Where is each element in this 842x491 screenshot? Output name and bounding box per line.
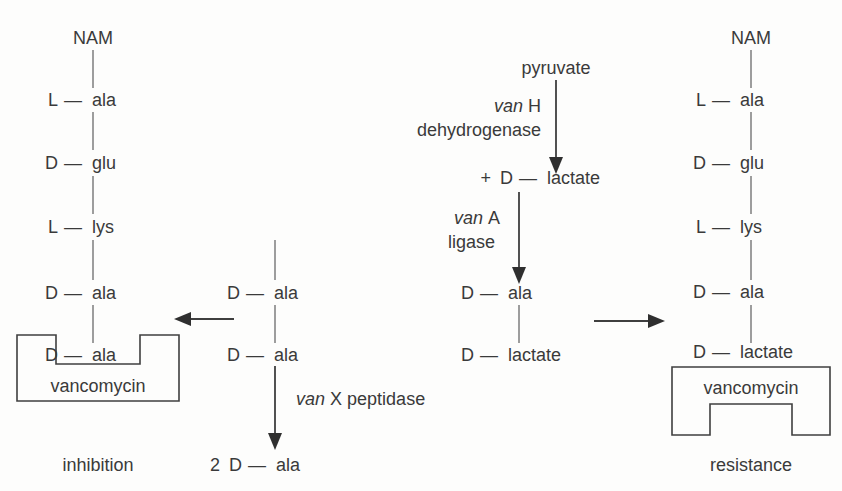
right-bond-ala-glu <box>751 112 752 150</box>
right-residue-3-name: lys <box>736 218 830 236</box>
right-residue-1-dash: — <box>706 91 736 109</box>
middle-residue-2: D — ala <box>206 346 344 364</box>
right-residue-1: L — ala <box>672 91 830 109</box>
middle-bond-top <box>275 240 276 280</box>
right-residue-5-stereo: D <box>672 343 706 361</box>
middle-enzyme-letter: X <box>330 389 342 409</box>
middle-residue-1: D — ala <box>206 284 344 302</box>
right-vancomycin-box <box>671 366 831 436</box>
left-residue-3-dash: — <box>58 218 88 236</box>
dipeptide-residue-2-name: lactate <box>504 346 598 364</box>
right-residue-4-stereo: D <box>672 283 706 301</box>
diagram-canvas: NAM L — ala D — glu L — lys D — ala D — … <box>0 0 842 491</box>
right-bond-lys-ala <box>751 240 752 280</box>
right-residue-4-name: ala <box>736 283 830 301</box>
right-residue-2-stereo: D <box>672 154 706 172</box>
left-residue-5-dash: — <box>58 346 88 364</box>
left-bond-nam-ala <box>93 50 94 88</box>
left-residue-4-dash: — <box>58 284 88 302</box>
left-residue-1-dash: — <box>58 91 88 109</box>
left-residue-4-stereo: D <box>24 284 58 302</box>
right-residue-2-name: glu <box>736 154 830 172</box>
middle-bond-ala-ala <box>275 305 276 343</box>
left-residue-5-stereo: D <box>24 346 58 364</box>
middle-enzyme-gene: van <box>296 389 325 409</box>
right-residue-2-dash: — <box>706 154 736 172</box>
left-bond-lys-ala <box>93 240 94 280</box>
middle-residue-1-stereo: D <box>206 284 240 302</box>
dipeptide-residue-2-dash: — <box>474 346 504 364</box>
left-residue-2: D — glu <box>24 154 162 172</box>
dehydrogenase-kind: dehydrogenase <box>417 121 541 139</box>
middle-residue-2-stereo: D <box>206 346 240 364</box>
left-residue-1-stereo: L <box>24 91 58 109</box>
ligase-gene-line: van A <box>454 209 500 227</box>
lactate-intermediate-prefix: + <box>475 169 495 187</box>
ligase-kind: ligase <box>448 233 495 251</box>
right-vancomycin-label: vancomycin <box>703 379 798 397</box>
lactate-intermediate-name: lactate <box>543 169 637 187</box>
left-residue-1-name: ala <box>88 91 162 109</box>
ligase-gene: van <box>454 208 483 228</box>
dipeptide-residue-1-stereo: D <box>440 284 474 302</box>
dehydrogenase-gene-line: van H <box>494 97 541 115</box>
dipeptide-residue-1-name: ala <box>504 284 598 302</box>
right-residue-4-dash: — <box>706 283 736 301</box>
right-residue-4: D — ala <box>672 283 830 301</box>
arrow-peptidase-down <box>262 366 288 452</box>
pyruvate-label: pyruvate <box>521 59 590 77</box>
dipeptide-residue-2: D — lactate <box>440 346 598 364</box>
arrow-to-right-chain <box>594 308 668 334</box>
left-residue-2-name: glu <box>88 154 162 172</box>
left-residue-3: L — lys <box>24 218 162 236</box>
right-residue-1-stereo: L <box>672 91 706 109</box>
middle-residue-1-name: ala <box>270 284 344 302</box>
left-vancomycin-label: vancomycin <box>50 377 145 395</box>
middle-product-stereo: D <box>224 456 242 474</box>
left-residue-4: D — ala <box>24 284 162 302</box>
right-chain-head: NAM <box>731 29 771 47</box>
left-residue-2-stereo: D <box>24 154 58 172</box>
left-residue-2-dash: — <box>58 154 88 172</box>
ligase-letter: A <box>488 208 500 228</box>
left-residue-1: L — ala <box>24 91 162 109</box>
left-chain-caption: inhibition <box>62 456 133 474</box>
middle-product-dash: — <box>242 456 272 474</box>
dipeptide-residue-1: D — ala <box>440 284 598 302</box>
arrow-to-left-chain <box>172 306 236 332</box>
right-residue-3-dash: — <box>706 218 736 236</box>
middle-product: 2 D — ala <box>204 456 346 474</box>
dehydrogenase-gene: van <box>494 96 523 116</box>
dipeptide-residue-1-dash: — <box>474 284 504 302</box>
left-residue-5: D — ala <box>24 346 162 364</box>
right-bond-glu-lys <box>751 176 752 214</box>
right-bond-nam-ala <box>751 50 752 88</box>
middle-residue-2-name: ala <box>270 346 344 364</box>
right-bond-ala-lactate <box>751 305 752 343</box>
middle-enzyme-kind: peptidase <box>347 389 425 409</box>
right-residue-5-dash: — <box>706 343 736 361</box>
right-residue-2: D — glu <box>672 154 830 172</box>
left-bond-glu-lys <box>93 176 94 214</box>
right-chain-caption: resistance <box>710 456 792 474</box>
left-residue-3-stereo: L <box>24 218 58 236</box>
right-residue-5: D — lactate <box>672 343 830 361</box>
lactate-intermediate-dash: — <box>513 169 543 187</box>
middle-product-name: ala <box>272 456 346 474</box>
right-residue-3: L — lys <box>672 218 830 236</box>
right-residue-5-name: lactate <box>736 343 830 361</box>
arrow-ligase-down <box>506 192 532 286</box>
lactate-intermediate-stereo: D <box>495 169 513 187</box>
middle-enzyme-label: van X peptidase <box>296 390 425 408</box>
middle-residue-1-dash: — <box>240 284 270 302</box>
middle-residue-2-dash: — <box>240 346 270 364</box>
middle-product-count: 2 <box>204 456 224 474</box>
right-residue-3-stereo: L <box>672 218 706 236</box>
left-bond-ala-glu <box>93 112 94 150</box>
left-residue-5-name: ala <box>88 346 162 364</box>
left-chain-head: NAM <box>73 29 113 47</box>
dehydrogenase-letter: H <box>528 96 541 116</box>
middle-dipeptide-bond <box>519 305 520 343</box>
arrow-dehydrogenase-down <box>543 80 569 176</box>
left-residue-4-name: ala <box>88 284 162 302</box>
